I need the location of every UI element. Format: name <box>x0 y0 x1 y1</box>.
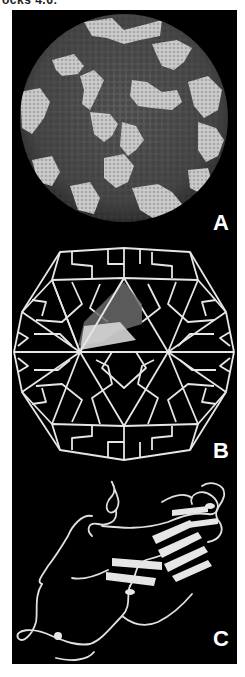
figure-caption-fragment: ocks 4.6: <box>2 0 58 7</box>
panel-b-icosahedral-cage: B <box>12 242 237 467</box>
panel-c-protein-ribbon: C <box>12 466 237 664</box>
panel-label-b: B <box>213 438 229 464</box>
panel-label-a: A <box>213 210 229 236</box>
protein-ribbon-image <box>12 466 237 664</box>
figure-panel-stack: A <box>12 10 237 664</box>
icosahedral-wireframe-image <box>12 242 237 467</box>
capsid-surface-image <box>12 10 237 240</box>
panel-label-c: C <box>213 626 229 652</box>
panel-a-capsid-surface: A <box>12 10 237 240</box>
